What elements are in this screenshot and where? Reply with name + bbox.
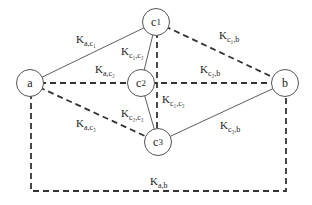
- node-label-sub: 1: [156, 17, 161, 27]
- node-a: a: [16, 69, 44, 97]
- node-b: b: [271, 69, 299, 97]
- node-c2: c2: [127, 69, 155, 97]
- label-a-c3: Ka,c₃: [76, 118, 96, 132]
- label-a-b: Ka,b: [150, 176, 168, 190]
- label-c1-c2: Kc₁,c₂: [121, 46, 144, 60]
- node-c3: c3: [144, 128, 172, 156]
- label-a-c2: Ka,c₂: [95, 64, 115, 78]
- node-label-sub: 3: [158, 137, 163, 147]
- node-c1: c1: [142, 8, 170, 36]
- node-label: b: [282, 76, 288, 91]
- label-c2-b: Kc₂,b: [200, 64, 220, 78]
- label-a-c1: Ka,c₁: [76, 34, 96, 48]
- label-c1-b: Kc₁,b: [219, 30, 239, 44]
- label-c1-c3: Kc₁,c₃: [162, 94, 185, 108]
- label-c2-c3: Kc₂,c₃: [121, 108, 144, 122]
- label-c3-b: Kc₃,b: [220, 120, 240, 134]
- node-label: a: [27, 76, 32, 91]
- node-label-sub: 2: [141, 78, 146, 88]
